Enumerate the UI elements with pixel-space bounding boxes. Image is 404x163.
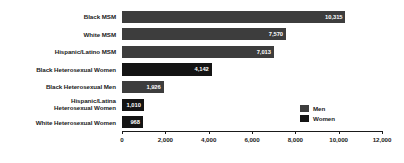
legend-swatch — [300, 115, 309, 122]
bar[interactable]: 968 — [122, 116, 143, 128]
x-axis-tick — [165, 131, 166, 134]
x-axis-tick-label: 2,000 — [158, 136, 173, 143]
plot-area: 10,3157,5707,0134,1421,9261,010968 — [122, 8, 382, 131]
bar-value-label: 1,926 — [146, 84, 160, 90]
bar-value-label: 7,570 — [269, 31, 283, 37]
x-axis-tick-label: 8,000 — [288, 136, 303, 143]
legend: MenWomen — [300, 104, 335, 124]
x-axis-tick-label: 12,000 — [373, 136, 392, 143]
x-axis-tick — [382, 131, 383, 134]
x-axis-tick-label: 4,000 — [201, 136, 216, 143]
x-axis-tick-label: 10,000 — [329, 136, 348, 143]
bar-value-label: 968 — [130, 119, 140, 125]
x-axis-tick-label: 6,000 — [244, 136, 259, 143]
bar[interactable]: 1,926 — [122, 81, 164, 93]
x-axis-tick — [339, 131, 340, 134]
category-label: White Heterosexual Women — [0, 119, 116, 126]
category-label: Black Heterosexual Women — [0, 66, 116, 73]
bar[interactable]: 7,570 — [122, 28, 286, 40]
legend-label: Men — [313, 105, 325, 112]
category-label: Hispanic/LatinaHeterosexual Women — [0, 98, 116, 112]
category-label-line: Hispanic/Latino MSM — [0, 48, 116, 55]
bar[interactable]: 1,010 — [122, 99, 144, 111]
category-label-line: White MSM — [0, 31, 116, 38]
x-axis-tick-label: 0 — [120, 136, 123, 143]
category-label-line: Heterosexual Women — [0, 105, 116, 112]
legend-item[interactable]: Women — [300, 114, 335, 123]
x-axis-tick — [209, 131, 210, 134]
legend-item[interactable]: Men — [300, 104, 335, 113]
category-label: Black MSM — [0, 13, 116, 20]
category-label-line: Black Heterosexual Women — [0, 66, 116, 73]
category-axis-labels: Black MSMWhite MSMHispanic/Latino MSMBla… — [0, 8, 119, 131]
bar[interactable]: 4,142 — [122, 63, 212, 75]
category-label-line: Black Heterosexual Men — [0, 83, 116, 90]
bar-chart: Black MSMWhite MSMHispanic/Latino MSMBla… — [0, 0, 404, 163]
category-label: Hispanic/Latino MSM — [0, 48, 116, 55]
bar-value-label: 7,013 — [257, 49, 271, 55]
category-label-line: White Heterosexual Women — [0, 119, 116, 126]
x-axis-tick — [252, 131, 253, 134]
bar-value-label: 1,010 — [127, 102, 141, 108]
category-label: Black Heterosexual Men — [0, 83, 116, 90]
bar[interactable]: 10,315 — [122, 11, 345, 23]
legend-swatch — [300, 105, 309, 112]
category-label-line: Black MSM — [0, 13, 116, 20]
bar-value-label: 10,315 — [325, 14, 342, 20]
x-axis-tick — [295, 131, 296, 134]
x-axis-tick — [122, 131, 123, 134]
category-label: White MSM — [0, 31, 116, 38]
bar-value-label: 4,142 — [194, 66, 208, 72]
legend-label: Women — [313, 115, 335, 122]
bar[interactable]: 7,013 — [122, 46, 274, 58]
